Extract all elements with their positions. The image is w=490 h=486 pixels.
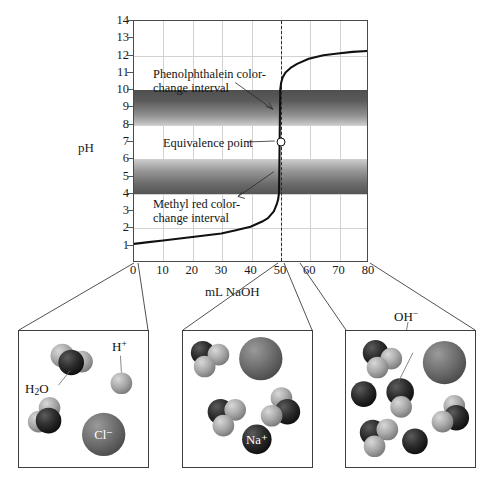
hydroxide-ion-label: OH−	[394, 309, 418, 325]
titration-figure: 14 13 12 11 10 9 8 7 6 5 4 3 2 1	[0, 0, 490, 486]
y-tick-10: 10	[107, 83, 129, 96]
y-tick-6: 6	[107, 152, 129, 165]
plot-area: Phenolphthalein color- change interval E…	[133, 20, 368, 262]
x-tick-20: 20	[186, 264, 199, 277]
x-tick-60: 60	[303, 264, 316, 277]
molecule-scene-acidic: Cl⁻	[19, 331, 148, 467]
y-axis-tick-labels: 14 13 12 11 10 9 8 7 6 5 4 3 2 1	[105, 20, 129, 262]
molecule-box-acidic: Cl⁻ H2O H+	[18, 330, 149, 468]
y-tick-1: 1	[107, 238, 129, 251]
x-tick-70: 70	[332, 264, 345, 277]
y-tick-7: 7	[107, 135, 129, 148]
y-tick-14: 14	[107, 14, 129, 27]
chloride-sphere-label: Cl⁻	[94, 428, 113, 442]
x-tick-10: 10	[156, 264, 169, 277]
y-tick-8: 8	[107, 117, 129, 130]
x-axis-title: mL NaOH	[205, 284, 260, 300]
y-tick-2: 2	[107, 221, 129, 234]
molecule-box-basic: OH−	[345, 330, 476, 468]
molecule-scene-neutral: Na⁺	[183, 331, 312, 467]
y-tick-4: 4	[107, 187, 129, 200]
x-axis-tick-labels: 0 10 20 30 40 50 60 70 80	[133, 264, 368, 284]
hydrogen-ion-label: H+	[112, 339, 127, 355]
x-tick-30: 30	[215, 264, 228, 277]
titration-chart: 14 13 12 11 10 9 8 7 6 5 4 3 2 1	[0, 0, 490, 310]
y-tick-11: 11	[107, 66, 129, 79]
y-tick-3: 3	[107, 204, 129, 217]
y-tick-5: 5	[107, 169, 129, 182]
x-tick-80: 80	[362, 264, 375, 277]
annotation-leader-lines	[134, 21, 367, 261]
x-tick-50: 50	[274, 264, 287, 277]
x-tick-0: 0	[130, 264, 136, 277]
molecule-box-neutral: Na⁺	[182, 330, 313, 468]
water-label-acidic: H2O	[25, 381, 49, 397]
y-tick-9: 9	[107, 100, 129, 113]
x-tick-40: 40	[244, 264, 257, 277]
sodium-sphere-label: Na⁺	[246, 433, 268, 447]
y-tick-13: 13	[107, 31, 129, 44]
y-axis-title: pH	[78, 140, 94, 156]
molecule-scene-basic	[346, 331, 475, 467]
y-tick-12: 12	[107, 48, 129, 61]
